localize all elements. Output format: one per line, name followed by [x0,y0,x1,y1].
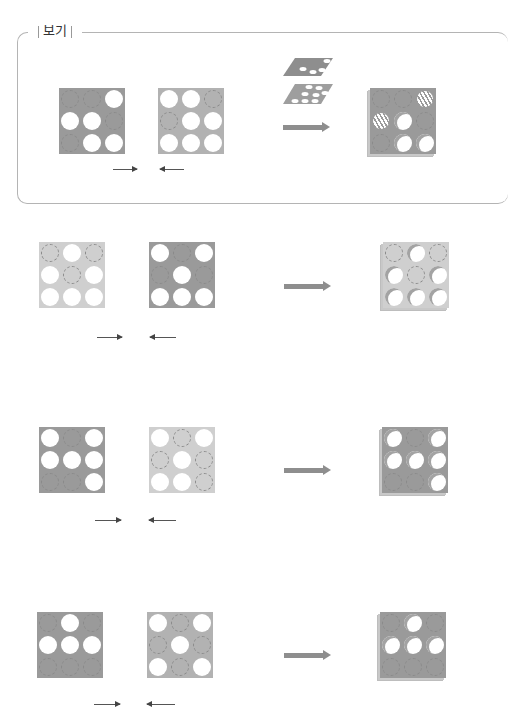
dashed-circle-icon [382,614,400,632]
hole-circle-icon [41,451,59,469]
example-card-a [59,88,125,154]
grid-cell [39,242,61,264]
hole-circle-icon [61,112,79,130]
grid-cell [383,286,405,308]
dashed-circle-icon [63,473,81,491]
dashed-circle-icon [63,266,81,284]
grid-cell [426,471,448,493]
option-3-result-card [380,612,446,678]
grid-cell [380,612,402,634]
hole-circle-icon [428,429,446,447]
hole-circle-icon [151,429,169,447]
grid-cell [402,634,424,656]
grid-cell [171,427,193,449]
grid-cell [404,449,426,471]
dashed-circle-icon [406,429,424,447]
dashed-circle-icon [149,636,167,654]
hole-circle-icon [63,288,81,306]
option-2-result-card [382,427,448,493]
arrow-right-icon [284,468,324,473]
hole-circle-icon [429,288,447,306]
box-label-text: 보기 [43,23,67,38]
grid-cell [61,427,83,449]
hole-circle-icon [85,429,103,447]
dashed-circle-icon [41,244,59,262]
arrow-left-small-icon [150,337,176,338]
grid-cell [39,427,61,449]
hole-circle-icon [429,266,447,284]
example-card-b [158,88,224,154]
grid-cell [404,471,426,493]
grid-cell [370,132,392,154]
grid-cell [169,612,191,634]
dashed-circle-icon [39,658,57,676]
option-3-card-a [37,612,103,678]
hole-circle-icon [204,112,222,130]
grid-cell [59,656,81,678]
grid-cell [83,242,105,264]
hole-circle-icon [382,636,400,654]
hole-circle-icon [407,244,425,262]
hole-circle-icon [41,266,59,284]
hole-circle-icon [151,473,169,491]
arrow-right-small-icon [97,337,122,338]
grid-cell [59,612,81,634]
grid-cell [427,242,449,264]
grid-cell [427,286,449,308]
hole-circle-icon [105,90,123,108]
grid-cell [426,427,448,449]
dashed-circle-icon [416,112,434,130]
grid-cell [147,634,169,656]
grid-cell [171,242,193,264]
hole-circle-icon [394,134,412,152]
dashed-circle-icon [407,266,425,284]
grid-cell [383,242,405,264]
grid-cell [37,612,59,634]
dashed-circle-icon [404,658,422,676]
arrow-right-small-icon [94,704,120,705]
hole-circle-icon [428,473,446,491]
grid-cell [414,110,436,132]
arrow-right-icon [284,284,324,289]
dashed-circle-icon [83,614,101,632]
dashed-circle-icon [406,473,424,491]
hole-circle-icon [404,614,422,632]
dashed-circle-icon [372,134,390,152]
grid-cell [158,132,180,154]
dashed-circle-icon [173,429,191,447]
grid-cell [405,264,427,286]
hole-circle-icon [384,451,402,469]
grid-cell [202,110,224,132]
grid-cell [193,427,215,449]
hole-circle-icon [160,134,178,152]
grid-cell [424,656,446,678]
hole-circle-icon [428,451,446,469]
grid-cell [169,634,191,656]
grid-cell [424,634,446,656]
dashed-circle-icon [41,473,59,491]
hole-circle-icon [204,134,222,152]
option-2-card-a [39,427,105,493]
hole-circle-icon [426,636,444,654]
grid-cell [370,88,392,110]
arrow-right-icon [283,125,323,130]
hole-circle-icon [61,636,79,654]
dashed-circle-icon [151,451,169,469]
grid-cell [83,286,105,308]
grid-cell [404,427,426,449]
dashed-circle-icon [204,90,222,108]
grid-cell [405,242,427,264]
dashed-circle-icon [384,473,402,491]
option-1-card-a [39,242,105,308]
grid-cell [149,264,171,286]
grid-cell [103,132,125,154]
grid-cell [39,286,61,308]
grid-cell [61,449,83,471]
hole-circle-icon [160,90,178,108]
grid-cell [149,427,171,449]
option-2-card-b [149,427,215,493]
dashed-circle-icon [160,112,178,130]
hole-circle-icon [173,266,191,284]
hole-circle-icon [83,134,101,152]
grid-cell [61,286,83,308]
